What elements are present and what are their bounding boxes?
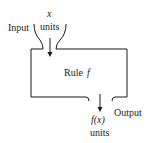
function-machine-diagram: x units Input Rule f Output f(x) units (0, 0, 152, 143)
rule-name-label: f (87, 67, 91, 78)
output-units-label: units (90, 127, 110, 138)
rule-label: Rule (64, 67, 83, 78)
input-arrow-icon (48, 38, 53, 57)
input-variable-label: x (46, 8, 52, 19)
output-label: Output (114, 107, 142, 118)
input-label: Input (8, 22, 29, 33)
output-expression-label: f(x) (91, 114, 106, 126)
output-arrow-icon (98, 94, 103, 112)
input-units-label: units (40, 21, 60, 32)
